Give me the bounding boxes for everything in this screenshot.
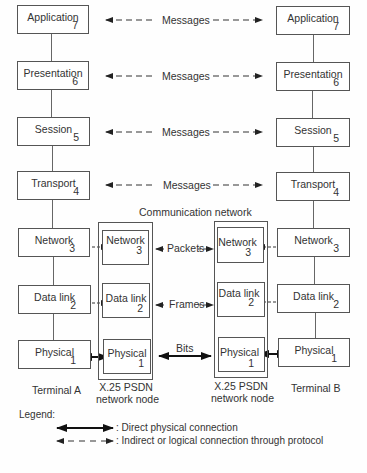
stack-connector [51, 34, 52, 61]
layer-number: 5 [73, 131, 79, 143]
right-node-label: X.25 PSDN network node [211, 380, 271, 404]
frames-label: Frames [169, 298, 205, 310]
layer-number: 3 [245, 246, 251, 258]
right-node-label-line2: network node [211, 392, 271, 404]
terminal-b-network: Network 3 [277, 228, 350, 257]
layer-number: 2 [333, 298, 339, 310]
legend-solid-text: : Direct physical connection [116, 422, 238, 433]
terminal-a-data-link: Data link 2 [18, 285, 91, 314]
stack-connector [52, 200, 53, 228]
messages-label-application: Messages [162, 14, 210, 26]
layer-number: 6 [72, 75, 78, 87]
terminal-b-data-link: Data link 2 [277, 284, 350, 313]
layer-number: 1 [248, 357, 254, 369]
layer-number: 6 [333, 76, 339, 88]
stack-connector [313, 147, 314, 172]
layer-number: 7 [333, 20, 339, 32]
layer-name: Network [19, 234, 89, 246]
layer-number: 4 [333, 186, 339, 198]
layer-number: 3 [69, 242, 75, 254]
layer-number: 1 [331, 352, 337, 364]
terminal-a-physical: Physical 1 [18, 340, 91, 369]
terminal-b-transport: Transport 4 [276, 172, 350, 201]
stack-connector [315, 313, 316, 338]
terminal-a-transport: Transport 4 [17, 171, 90, 200]
messages-label-transport: Messages [163, 179, 211, 191]
right-node-label-line1: X.25 PSDN [211, 380, 271, 392]
terminal-a-session: Session 5 [17, 117, 90, 146]
terminal-b-application: Application 7 [276, 6, 350, 35]
messages-label-session: Messages [162, 126, 210, 138]
layer-number: 1 [70, 354, 76, 366]
layer-number: 7 [72, 19, 78, 31]
terminal-a-application: Application 7 [17, 5, 89, 34]
right-node-network: Network 3 [217, 227, 264, 263]
messages-label-presentation: Messages [162, 70, 210, 82]
communication-network-label: Communication network [139, 206, 252, 218]
terminal-a-label: Terminal A [32, 384, 81, 396]
legend-dashed-text: : Indirect or logical connection through… [116, 435, 323, 446]
left-node-data-link: Data link 2 [102, 283, 150, 318]
packets-label: Packets [167, 242, 204, 254]
terminal-b-label: Terminal B [291, 382, 341, 394]
right-node-data-link: Data link 2 [217, 282, 265, 317]
stack-connector [53, 314, 54, 340]
terminal-b-presentation: Presentation 6 [276, 62, 350, 91]
layer-name: Physical [19, 346, 90, 358]
left-node-label-line1: X.25 PSDN [96, 381, 156, 393]
legend-title: Legend: [19, 409, 55, 420]
left-node-label-line2: network node [96, 393, 156, 405]
left-node-network: Network 3 [102, 230, 149, 265]
right-node-physical: Physical 1 [218, 337, 265, 372]
terminal-b-physical: Physical 1 [278, 338, 350, 367]
bits-label: Bits [176, 342, 194, 354]
layer-number: 2 [137, 302, 143, 314]
layer-name: Physical [279, 344, 349, 356]
layer-name: Data link [214, 287, 264, 299]
stack-connector [313, 201, 314, 228]
layer-name: Data link [19, 291, 90, 303]
stack-connector [53, 257, 54, 285]
stack-connector [313, 35, 314, 62]
stack-connector [312, 91, 313, 118]
terminal-b-session: Session 5 [276, 118, 350, 147]
layer-number: 3 [333, 242, 339, 254]
left-node-label: X.25 PSDN network node [96, 381, 156, 405]
layer-number: 2 [248, 296, 254, 308]
stack-connector [51, 90, 52, 117]
left-node-physical: Physical 1 [103, 339, 151, 374]
layer-number: 1 [138, 357, 144, 369]
terminal-a-presentation: Presentation 6 [17, 61, 89, 90]
layer-name: Network [212, 236, 263, 248]
layer-number: 2 [70, 299, 76, 311]
stack-connector [314, 257, 315, 284]
layer-number: 5 [333, 132, 339, 144]
layer-name: Physical [215, 346, 264, 358]
layer-number: 4 [73, 185, 79, 197]
stack-connector [52, 146, 53, 171]
terminal-a-network: Network 3 [18, 228, 90, 257]
layer-number: 3 [136, 244, 142, 256]
